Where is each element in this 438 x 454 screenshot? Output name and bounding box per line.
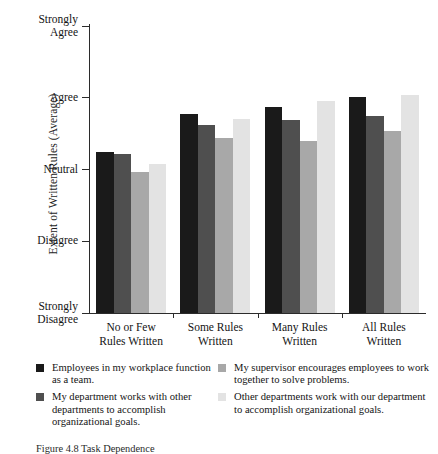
bar (131, 172, 149, 313)
bar (149, 164, 167, 313)
y-axis-tick-label: Agree (0, 91, 78, 104)
bar (401, 95, 419, 313)
figure-caption: Figure 4.8 Task Dependence (36, 443, 155, 454)
bar (265, 107, 283, 313)
chart-legend: Employees in my workplace function as a … (0, 362, 438, 440)
legend-entry: My department works with other departmen… (36, 391, 216, 428)
bar (180, 114, 198, 313)
bar (114, 154, 132, 313)
legend-swatch-icon (36, 393, 44, 401)
bar (198, 125, 216, 313)
legend-swatch-icon (218, 364, 226, 372)
legend-label: Other departments work with our departme… (234, 391, 426, 414)
y-axis-tick-label: Strongly Disagree (0, 300, 78, 326)
bar (233, 119, 251, 313)
x-axis-group-label: Many Rules Written (258, 320, 342, 348)
legend-entry: Employees in my workplace function as a … (36, 362, 216, 386)
legend-column-right: My supervisor encourages employees to wo… (218, 362, 436, 421)
legend-label: Employees in my workplace function as a … (52, 362, 211, 385)
y-axis-tick (82, 26, 89, 27)
x-axis-tick (173, 313, 174, 318)
legend-label: My department works with other departmen… (52, 391, 191, 426)
legend-swatch-icon (36, 364, 44, 372)
bar-chart-figure: Extent of Written Rules (Average) Strong… (0, 0, 438, 454)
y-axis-tick-label: Disagree (0, 234, 78, 247)
x-axis-group-label: All Rules Written (342, 320, 426, 348)
x-axis-tick (342, 313, 343, 318)
legend-entry: Other departments work with our departme… (218, 391, 436, 415)
legend-entry: My supervisor encourages employees to wo… (218, 362, 436, 386)
y-axis-line (89, 24, 90, 314)
bar (215, 138, 233, 313)
bar (317, 101, 335, 313)
legend-label: My supervisor encourages employees to wo… (234, 362, 429, 385)
x-axis-tick (258, 313, 259, 318)
y-axis-tick (82, 313, 89, 314)
y-axis-tick-label: Neutral (0, 163, 78, 176)
bar (300, 141, 318, 313)
y-axis-tick-label: Strongly Agree (0, 13, 78, 39)
bar (96, 152, 114, 313)
x-axis-group-label: No or Few Rules Written (89, 320, 173, 348)
legend-column-left: Employees in my workplace function as a … (36, 362, 216, 433)
y-axis-tick (82, 169, 89, 170)
y-axis-tick (82, 97, 89, 98)
x-axis-group-label: Some Rules Written (173, 320, 257, 348)
bar (349, 97, 367, 313)
y-axis-tick (82, 241, 89, 242)
legend-swatch-icon (218, 393, 226, 401)
bar (282, 120, 300, 313)
bar (366, 116, 384, 313)
bar (384, 131, 402, 313)
